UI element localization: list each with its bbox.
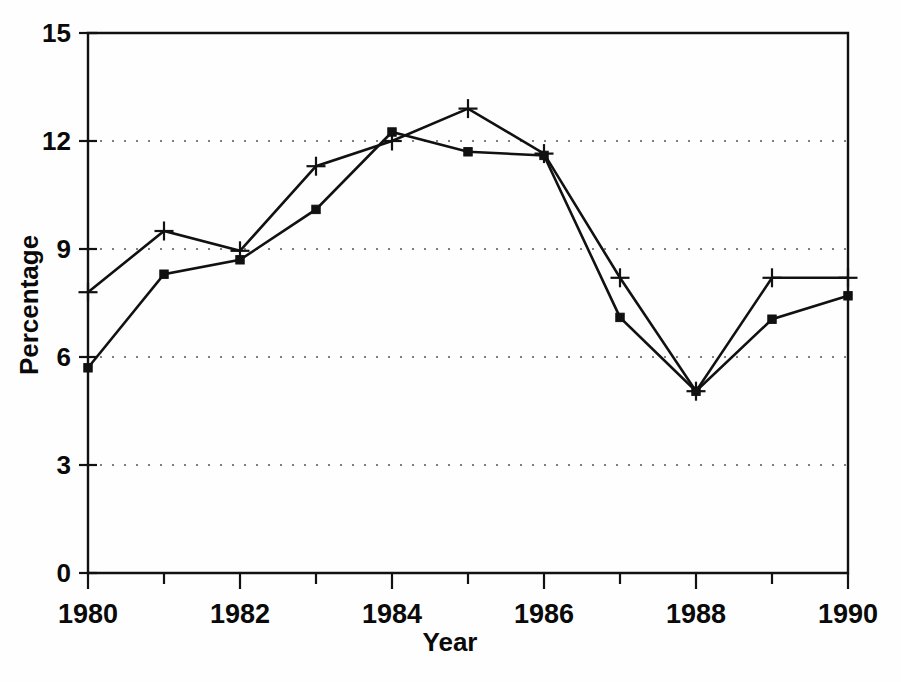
x-tick-label: 1986: [514, 599, 574, 629]
x-tick-label: 1982: [210, 599, 270, 629]
x-tick-label: 1990: [818, 599, 878, 629]
figure-container: 03691215 198019821984198619881990 Year P…: [0, 0, 901, 682]
x-axis-title: Year: [423, 627, 478, 657]
square-marker: [312, 205, 320, 213]
square-marker: [236, 256, 244, 264]
square-marker: [84, 364, 92, 372]
y-tick-label: 9: [57, 234, 71, 264]
y-tick-label: 0: [57, 558, 71, 588]
y-tick-label: 3: [57, 450, 71, 480]
x-tick-label: 1988: [666, 599, 726, 629]
square-marker: [768, 315, 776, 323]
y-tick-label: 6: [57, 342, 71, 372]
y-axis-tick-labels: 03691215: [42, 18, 71, 588]
x-axis-ticks: [88, 573, 848, 589]
plus-marker: [611, 268, 630, 287]
y-tick-label: 12: [42, 126, 71, 156]
square-marker: [464, 148, 472, 156]
data-series-layer: [79, 99, 858, 401]
x-tick-label: 1980: [58, 599, 118, 629]
square-marker: [692, 387, 700, 395]
line-chart: 03691215 198019821984198619881990 Year P…: [0, 0, 901, 682]
plus-marker: [459, 99, 478, 118]
square-marker: [388, 128, 396, 136]
y-tick-label: 15: [42, 18, 71, 48]
series-plus: [79, 99, 858, 401]
y-axis-title: Percentage: [14, 235, 44, 375]
square-marker: [616, 313, 624, 321]
series-line: [88, 132, 848, 391]
plus-marker: [763, 268, 782, 287]
grid-lines: [88, 141, 848, 465]
square-marker: [540, 151, 548, 159]
plus-marker: [839, 268, 858, 287]
x-tick-label: 1984: [362, 599, 422, 629]
square-marker: [160, 270, 168, 278]
series-square: [84, 128, 852, 396]
square-marker: [844, 292, 852, 300]
caption-sliver: [0, 670, 901, 682]
x-axis-tick-labels: 198019821984198619881990: [58, 599, 878, 629]
